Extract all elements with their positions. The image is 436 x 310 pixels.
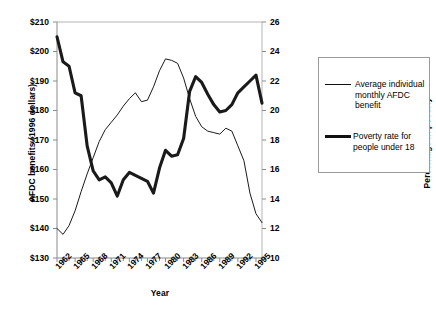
y-right-tick-label: 20 bbox=[270, 105, 310, 115]
chart-legend: Average individual monthly AFDC benefit … bbox=[318, 57, 430, 173]
y-right-tick-label: 14 bbox=[270, 194, 310, 204]
y-right-tick-label: 16 bbox=[270, 164, 310, 174]
legend-line-thin-icon bbox=[325, 84, 351, 85]
data-series-layer bbox=[57, 37, 262, 235]
legend-item-afdc-benefit: Average individual monthly AFDC benefit bbox=[325, 79, 429, 111]
y-left-tick-label: $130 bbox=[9, 253, 49, 263]
y-right-tick-label: 22 bbox=[270, 76, 310, 86]
y-right-tick-label: 12 bbox=[270, 223, 310, 233]
y-right-tick-label: 24 bbox=[270, 46, 310, 56]
axis-tick-marks bbox=[53, 22, 266, 262]
y-right-tick-label: 26 bbox=[270, 17, 310, 27]
legend-label-afdc-benefit: Average individual monthly AFDC benefit bbox=[355, 79, 429, 111]
legend-item-poverty-rate: Poverty rate for people under 18 bbox=[325, 131, 429, 152]
y-right-tick-label: 10 bbox=[270, 253, 310, 263]
x-axis-title: Year bbox=[55, 288, 265, 298]
y-axis-left-title: AFDC benefits (1996 dollars) bbox=[27, 58, 37, 228]
chart-figure: $130$140$150$160$170$180$190$200$210 101… bbox=[0, 0, 436, 310]
legend-label-poverty-rate: Poverty rate for people under 18 bbox=[353, 131, 429, 152]
y-right-tick-label: 18 bbox=[270, 135, 310, 145]
legend-line-thick-icon bbox=[325, 135, 351, 138]
y-left-tick-label: $210 bbox=[9, 17, 49, 27]
y-left-tick-label: $200 bbox=[9, 46, 49, 56]
